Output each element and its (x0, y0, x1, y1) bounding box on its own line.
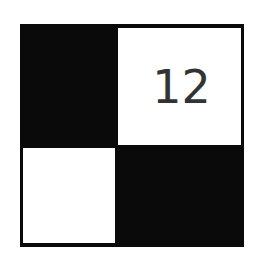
puzzle-grid: 12 (20, 24, 244, 247)
cell-top-right[interactable]: 12 (118, 28, 241, 145)
cell-bottom-left[interactable] (23, 148, 115, 243)
cell-number: 12 (118, 28, 241, 145)
